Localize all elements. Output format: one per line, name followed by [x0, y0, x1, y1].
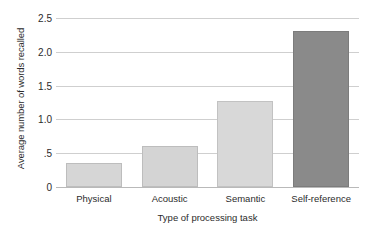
bars-group	[56, 18, 359, 187]
y-tick-label: 0	[22, 182, 52, 193]
y-tick-label: 2.5	[22, 13, 52, 24]
bar-acoustic	[142, 146, 198, 187]
bar-self-reference	[293, 31, 349, 187]
category-label-self-reference: Self-reference	[291, 193, 351, 204]
y-tick-label: 1.5	[22, 80, 52, 91]
plot-area	[56, 18, 359, 187]
category-label-physical: Physical	[76, 193, 111, 204]
bar-physical	[66, 163, 122, 187]
bar-semantic	[217, 101, 273, 187]
y-tick-label: 1.0	[22, 114, 52, 125]
x-axis-title: Type of processing task	[56, 212, 359, 223]
x-axis-category-labels: PhysicalAcousticSemanticSelf-reference	[56, 193, 359, 209]
y-axis-tick-labels: 0.51.01.52.02.5	[22, 0, 52, 237]
y-tick-label: .5	[22, 148, 52, 159]
bar-chart-figure: Average number of words recalled 0.51.01…	[0, 0, 375, 237]
x-axis-baseline	[56, 187, 359, 188]
category-label-acoustic: Acoustic	[152, 193, 188, 204]
category-label-semantic: Semantic	[226, 193, 266, 204]
y-tick-label: 2.0	[22, 46, 52, 57]
